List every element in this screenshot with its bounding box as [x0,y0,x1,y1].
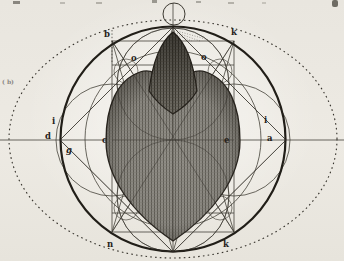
apex-small-circle [163,3,185,25]
point-label-i-9: i [264,115,268,125]
point-label-d-5: d [45,131,51,141]
engraving-page: bkooidgceiank( b) [0,0,344,261]
point-label-i-4: i [52,116,56,126]
point-label-e-8: e [224,135,230,145]
point-label-o-2: o [131,53,137,63]
point-label-n-11: n [107,239,113,249]
point-label-b-13: ( b) [2,78,14,85]
point-label-a-10: a [267,133,273,143]
point-label-g-6: g [66,145,72,155]
point-label-o-3: o [201,52,207,62]
point-label-b-0: b [104,29,110,39]
point-label-k-1: k [231,27,238,37]
point-label-k-12: k [223,239,230,249]
point-label-c-7: c [102,135,107,145]
engraving-figure: bkooidgceiank( b) [0,0,344,261]
